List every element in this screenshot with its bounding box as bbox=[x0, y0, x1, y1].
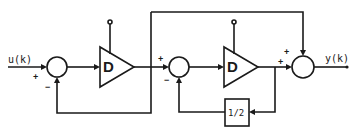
summer2-minus-sign: − bbox=[164, 75, 169, 85]
summing-junction-3 bbox=[292, 56, 314, 78]
delay2-label: D bbox=[227, 58, 238, 75]
block-diagram: u(k) + − D + − D + + 1/2 y(k) bbox=[0, 0, 357, 137]
arrow-icon bbox=[300, 50, 306, 56]
arrow-icon bbox=[218, 64, 224, 70]
delay1-control-terminal bbox=[108, 20, 112, 24]
input-arrow-icon bbox=[41, 64, 47, 70]
output-label: y(k) bbox=[325, 53, 349, 64]
arrow-icon bbox=[286, 64, 292, 70]
arrow-icon bbox=[176, 77, 182, 83]
summing-junction-1 bbox=[47, 57, 67, 77]
feedback-wire-2b bbox=[179, 80, 225, 112]
delay1-label: D bbox=[103, 58, 114, 75]
arrow-icon bbox=[249, 109, 255, 115]
arrow-icon bbox=[54, 77, 60, 83]
feedforward-wire bbox=[151, 12, 303, 53]
input-label: u(k) bbox=[8, 54, 32, 65]
summer2-plus-sign: + bbox=[158, 54, 163, 64]
summer3-left-plus-sign: + bbox=[278, 57, 283, 67]
feedback-wire-2a bbox=[252, 67, 275, 112]
arrow-icon bbox=[163, 64, 169, 70]
output-terminal bbox=[345, 65, 348, 68]
summing-junction-2 bbox=[169, 57, 189, 77]
gain-label: 1/2 bbox=[228, 108, 244, 118]
summer3-top-plus-sign: + bbox=[284, 47, 289, 57]
delay2-control-terminal bbox=[232, 20, 236, 24]
summer1-minus-sign: − bbox=[45, 82, 50, 92]
summer1-plus-sign: + bbox=[33, 72, 38, 82]
arrow-icon bbox=[94, 64, 100, 70]
